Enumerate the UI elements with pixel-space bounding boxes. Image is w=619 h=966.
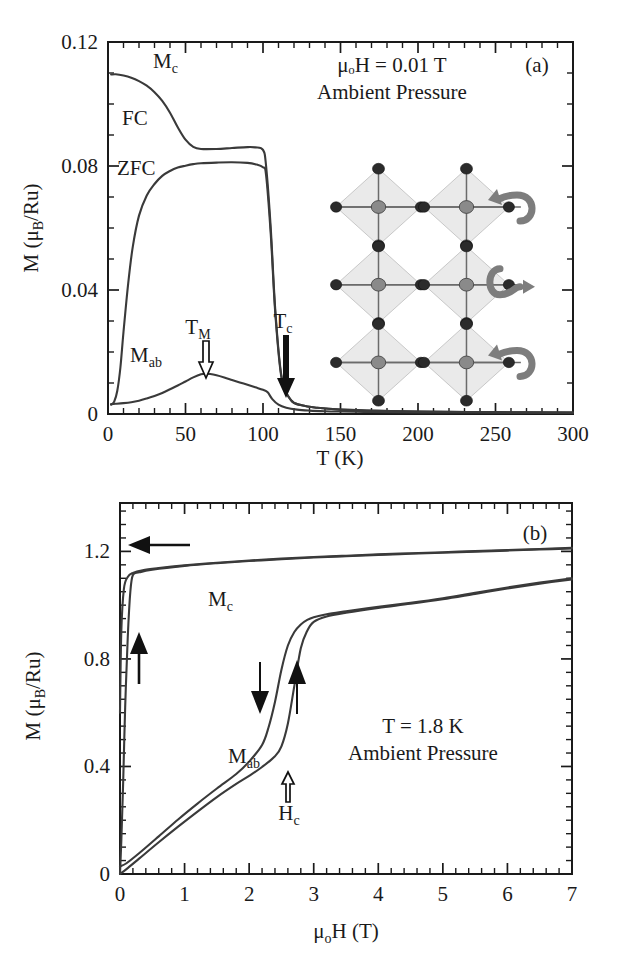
- panel-a-tag: (a): [525, 53, 548, 77]
- label-mab-panel-a: Mab: [130, 343, 162, 370]
- mc-decreasing-direction-arrow-icon: [128, 536, 190, 554]
- panel-a-field-annotation: μₒH = 0.01 T: [337, 53, 446, 77]
- tm-arrow-icon: [199, 341, 213, 378]
- label-zfc: ZFC: [117, 156, 156, 180]
- curve-mc-decreasing: [120, 548, 572, 713]
- panel-a-y-axis-title: M (μB/Ru): [19, 184, 46, 273]
- panel-a-svg: 00.040.080.12 050100150200250300 T (K) M…: [0, 0, 619, 486]
- x-tick-label: 1: [179, 882, 190, 906]
- x-tick-label: 150: [325, 422, 357, 446]
- svg-text:M (μB/Ru): M (μB/Ru): [21, 652, 48, 741]
- x-tick-label: 7: [567, 882, 578, 906]
- x-tick-label: 4: [373, 882, 384, 906]
- panel-b-y-axis-title: M (μB/Ru): [21, 652, 48, 741]
- y-tick-label: 1.2: [84, 539, 110, 563]
- panel-a-pressure-annotation: Ambient Pressure: [317, 80, 467, 104]
- inset-perovskite-octahedra-diagram: [331, 163, 536, 406]
- mc-increasing-direction-arrow-icon: [130, 632, 148, 684]
- panel-b-x-tick-labels: 01234567: [115, 882, 578, 906]
- panel-b-tag: (b): [523, 521, 548, 545]
- panel-b-curves: [120, 548, 572, 874]
- y-tick-label: 0.8: [84, 647, 110, 671]
- x-tick-label: 0: [103, 422, 114, 446]
- y-tick-label: 0.08: [61, 154, 98, 178]
- x-tick-label: 100: [247, 422, 279, 446]
- x-tick-label: 0: [115, 882, 126, 906]
- curve-mab-increasing: [120, 579, 572, 874]
- panel-a-y-tick-labels: 00.040.080.12: [61, 30, 98, 426]
- panel-b-svg: 00.40.81.2 01234567 μoH (T) M (μB/Ru) (b…: [0, 486, 619, 966]
- x-tick-label: 2: [244, 882, 255, 906]
- panel-b-magnetization-vs-field: 00.40.81.2 01234567 μoH (T) M (μB/Ru) (b…: [0, 486, 619, 966]
- panel-a-magnetization-vs-temperature: 00.040.080.12 050100150200250300 T (K) M…: [0, 0, 619, 486]
- y-tick-label: 0.4: [84, 754, 111, 778]
- magnetization-figure: 00.040.080.12 050100150200250300 T (K) M…: [0, 0, 619, 966]
- y-tick-label: 0.04: [61, 278, 98, 302]
- curve-mc-increasing: [120, 548, 572, 874]
- y-tick-label: 0: [88, 402, 99, 426]
- x-tick-label: 6: [502, 882, 513, 906]
- label-mc-panel-b: Mc: [208, 587, 233, 614]
- x-tick-label: 300: [557, 422, 589, 446]
- panel-b-pressure-annotation: Ambient Pressure: [348, 741, 498, 765]
- label-hc: Hc: [278, 801, 299, 828]
- y-tick-label: 0.12: [61, 30, 98, 54]
- panel-b-temperature-annotation: T = 1.8 K: [382, 714, 463, 738]
- x-tick-label: 200: [402, 422, 434, 446]
- panel-a-x-tick-labels: 050100150200250300: [103, 422, 589, 446]
- panel-a-x-axis-title: T (K): [317, 446, 364, 470]
- y-tick-label: 0: [100, 862, 111, 886]
- label-fc: FC: [122, 106, 148, 130]
- x-tick-label: 5: [438, 882, 449, 906]
- panel-b-x-axis-title: μoH (T): [313, 919, 379, 946]
- label-mab-panel-b: Mab: [228, 744, 260, 771]
- label-tc: Tc: [273, 309, 292, 336]
- curve-mab: [111, 374, 573, 413]
- panel-b-y-tick-labels: 00.40.81.2: [84, 539, 111, 886]
- label-tm: TM: [185, 315, 211, 342]
- mab-decreasing-direction-arrow-icon: [251, 662, 269, 714]
- x-tick-label: 3: [308, 882, 319, 906]
- hc-arrow-icon: [282, 772, 294, 802]
- svg-text:M (μB/Ru): M (μB/Ru): [19, 184, 46, 273]
- x-tick-label: 250: [480, 422, 512, 446]
- x-tick-label: 50: [175, 422, 196, 446]
- label-mc-panel-a: Mc: [153, 49, 178, 76]
- curve-mab-decreasing: [120, 578, 572, 866]
